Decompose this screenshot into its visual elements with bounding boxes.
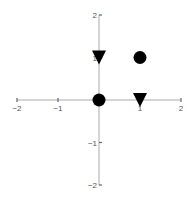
circle-marker: [134, 51, 147, 64]
circle-marker: [93, 94, 106, 107]
x-tick-label: −1: [53, 104, 63, 113]
scatter-chart: −2−112−2−112: [0, 0, 195, 202]
x-tick-label: −2: [12, 104, 22, 113]
data-points: [92, 51, 147, 108]
y-tick-label: 2: [93, 11, 98, 20]
x-tick-label: 2: [179, 104, 184, 113]
y-tick-label: −2: [88, 181, 98, 190]
y-tick-label: −1: [88, 139, 98, 148]
